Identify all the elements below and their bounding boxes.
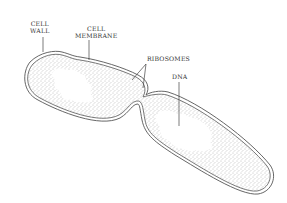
cell-membrane-label-line1: CELL (75, 25, 117, 32)
cell-wall-label-line2: WALL (30, 27, 50, 34)
cell-membrane-label: CELL MEMBRANE (75, 25, 117, 39)
ribosomes-pointer-1 (132, 64, 146, 80)
cell-wall-label: CELL WALL (30, 20, 50, 34)
dna-label: DNA (172, 73, 187, 80)
cell-wall-label-line1: CELL (30, 20, 50, 27)
ribosomes-pointer-2 (143, 64, 146, 88)
ribosomes-label: RIBOSOMES (147, 55, 190, 62)
cell-membrane-label-line2: MEMBRANE (75, 32, 117, 39)
